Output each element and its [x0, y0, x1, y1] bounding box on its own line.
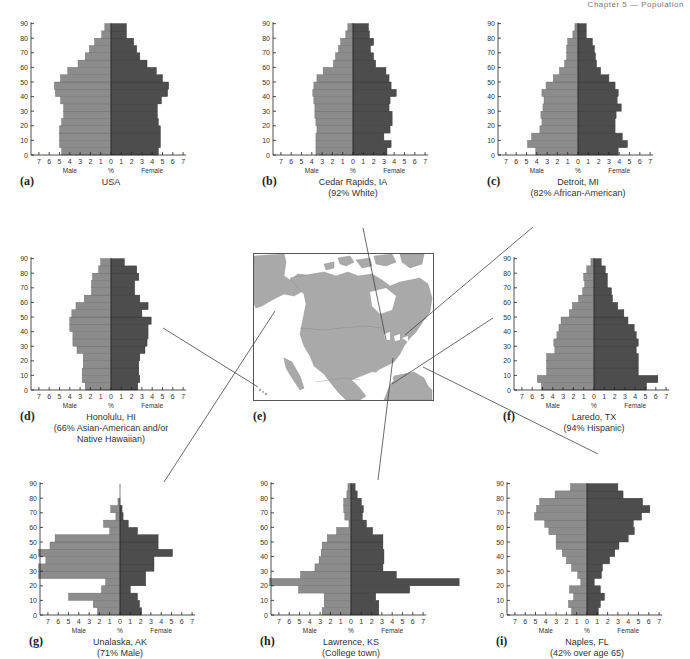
female-bar — [120, 520, 128, 527]
female-bar — [111, 302, 148, 309]
pyramid-detroit: 0102030405060708090765432101234567Male%F… — [467, 0, 682, 175]
svg-text:2: 2 — [597, 158, 601, 165]
svg-text:0: 0 — [349, 618, 353, 625]
pyramid-plot: 0102030405060708090765432101234567Male%F… — [483, 235, 690, 410]
female-axis-label: Female — [141, 167, 163, 174]
female-bar — [578, 89, 618, 96]
female-bar — [578, 126, 615, 133]
svg-text:3: 3 — [607, 158, 611, 165]
svg-text:4: 4 — [77, 618, 81, 625]
percent-axis-label: % — [350, 167, 356, 174]
svg-text:0: 0 — [109, 393, 113, 400]
male-bar — [62, 119, 111, 126]
panel-letter: (h) — [260, 634, 275, 649]
female-bar — [587, 593, 605, 600]
male-bar — [313, 89, 353, 96]
svg-text:80: 80 — [503, 270, 511, 277]
male-bar — [69, 593, 121, 600]
male-bar — [89, 46, 111, 53]
male-bar — [78, 60, 111, 67]
male-bar — [559, 67, 578, 74]
svg-text:4: 4 — [150, 158, 154, 165]
svg-text:90: 90 — [487, 20, 495, 27]
svg-text:5: 5 — [58, 158, 62, 165]
male-bar — [532, 133, 578, 140]
male-bar — [314, 97, 353, 104]
male-bar — [83, 354, 111, 361]
svg-text:40: 40 — [487, 93, 495, 100]
svg-text:2: 2 — [564, 618, 568, 625]
svg-text:60: 60 — [503, 299, 511, 306]
female-bar — [120, 600, 140, 607]
svg-text:7: 7 — [37, 158, 41, 165]
svg-text:80: 80 — [260, 495, 268, 502]
pyramid-plot: 0102030405060708090765432101234567Male%F… — [9, 460, 224, 635]
female-bar — [353, 97, 390, 104]
male-bar — [568, 600, 587, 607]
female-bar — [587, 571, 601, 578]
female-bar — [351, 579, 459, 586]
svg-text:4: 4 — [68, 393, 72, 400]
female-bar — [353, 133, 384, 140]
svg-text:70: 70 — [503, 284, 511, 291]
female-bar — [587, 491, 623, 498]
svg-text:7: 7 — [520, 393, 524, 400]
female-bar — [351, 520, 366, 527]
male-bar — [60, 126, 112, 133]
female-bar — [351, 564, 383, 571]
svg-text:1: 1 — [119, 158, 123, 165]
svg-text:3: 3 — [382, 158, 386, 165]
svg-text:7: 7 — [513, 618, 517, 625]
pyramid-plot: 0102030405060708090765432101234567Male%F… — [0, 0, 215, 175]
svg-text:5: 5 — [161, 393, 165, 400]
male-bar — [298, 586, 351, 593]
svg-text:80: 80 — [487, 35, 495, 42]
female-bar — [120, 564, 154, 571]
male-bar — [54, 82, 111, 89]
svg-text:5: 5 — [644, 393, 648, 400]
female-bar — [111, 133, 160, 140]
male-bar — [591, 259, 594, 266]
female-bar — [578, 67, 601, 74]
female-bar — [587, 586, 600, 593]
svg-text:7: 7 — [37, 393, 41, 400]
svg-text:0: 0 — [109, 158, 113, 165]
male-bar — [346, 31, 353, 38]
male-bar — [39, 571, 120, 578]
male-bar — [547, 368, 594, 375]
pyramid-lawrence: 0102030405060708090765432101234567Male%F… — [240, 460, 455, 635]
pyramid-usa: 0102030405060708090765432101234567Male%F… — [0, 0, 215, 175]
pyramid-plot: 0102030405060708090765432101234567Male%F… — [476, 460, 690, 635]
male-bar — [572, 302, 594, 309]
svg-text:10: 10 — [496, 597, 504, 604]
svg-text:1: 1 — [128, 618, 132, 625]
male-bar — [537, 506, 587, 513]
svg-text:0: 0 — [24, 387, 28, 394]
male-bar — [534, 513, 587, 520]
svg-text:70: 70 — [260, 509, 268, 516]
female-bar — [578, 119, 615, 126]
male-bar — [553, 75, 578, 82]
male-bar — [316, 148, 353, 155]
svg-text:6: 6 — [171, 158, 175, 165]
svg-text:60: 60 — [487, 64, 495, 71]
female-bar — [587, 549, 615, 556]
svg-text:30: 30 — [20, 343, 28, 350]
male-bar — [344, 498, 351, 505]
panel-title: Lawrence, KS(College town) — [291, 637, 411, 659]
pyramid-cedar-rapids: 0102030405060708090765432101234567Male%F… — [242, 0, 457, 175]
female-bar — [353, 82, 391, 89]
percent-axis-label: % — [108, 167, 114, 174]
female-bar — [587, 498, 643, 505]
svg-text:6: 6 — [530, 393, 534, 400]
svg-text:0: 0 — [491, 152, 495, 159]
svg-text:10: 10 — [260, 597, 268, 604]
svg-text:2: 2 — [613, 393, 617, 400]
svg-text:1: 1 — [339, 618, 343, 625]
female-bar — [111, 75, 163, 82]
male-bar — [85, 53, 111, 60]
svg-text:4: 4 — [626, 618, 630, 625]
svg-text:4: 4 — [544, 618, 548, 625]
male-bar — [540, 498, 587, 505]
male-bar — [92, 273, 111, 280]
